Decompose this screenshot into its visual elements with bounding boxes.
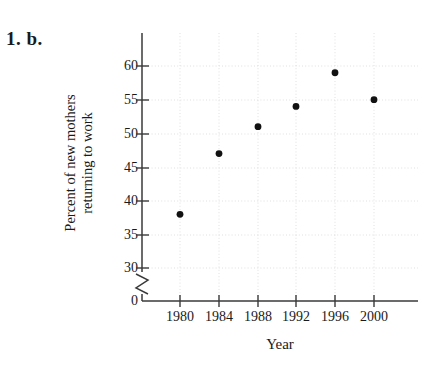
scatter-plot-figure: 1. b. Percent of new mothers returning t… bbox=[0, 0, 430, 374]
data-point-2000 bbox=[371, 96, 378, 103]
data-point-1980 bbox=[177, 211, 184, 218]
plot-canvas bbox=[0, 0, 430, 374]
horizontal-gridlines bbox=[142, 66, 418, 268]
data-point-1988 bbox=[255, 123, 262, 130]
vertical-gridlines bbox=[180, 33, 374, 301]
data-point-1996 bbox=[332, 69, 339, 76]
data-point-1984 bbox=[216, 150, 223, 157]
y-axis-break-icon bbox=[136, 274, 148, 294]
data-point-1992 bbox=[293, 103, 300, 110]
data-series-points bbox=[177, 69, 378, 217]
